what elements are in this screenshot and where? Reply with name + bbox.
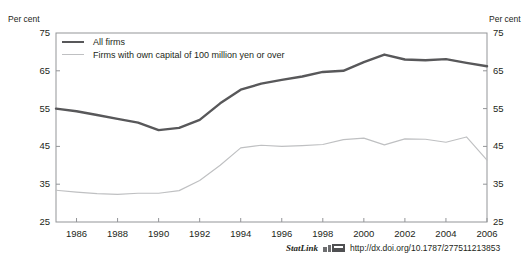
y-axis-tick-label-right: 65 [493, 65, 517, 76]
x-axis-tick-label: 1996 [262, 228, 302, 239]
statlink-url[interactable]: http://dx.doi.org/10.1787/277511213853 [350, 243, 500, 253]
x-axis-tick-label: 2006 [467, 228, 507, 239]
x-axis-tick-label: 1992 [180, 228, 220, 239]
y-axis-tick-label-right: 35 [493, 178, 517, 189]
statlink-icon [323, 244, 345, 253]
statlink-label: StatLink [286, 243, 318, 253]
y-axis-tick-label-right: 75 [493, 27, 517, 38]
statlink-footer: StatLink http://dx.doi.org/10.1787/27751… [286, 243, 500, 253]
y-axis-tick-label-right: 45 [493, 140, 517, 151]
x-axis-tick-label: 2004 [426, 228, 466, 239]
x-axis-tick-label: 1990 [139, 228, 179, 239]
y-axis-tick-label-left: 45 [26, 140, 50, 151]
y-axis-tick-label-right: 55 [493, 103, 517, 114]
y-axis-tick-label-left: 25 [26, 216, 50, 227]
x-axis-tick-label: 2002 [385, 228, 425, 239]
y-axis-tick-label-left: 75 [26, 27, 50, 38]
x-axis-tick-label: 2000 [344, 228, 384, 239]
x-axis-tick-label: 1986 [57, 228, 97, 239]
chart-figure: Per cent Per cent All firms Firms with o… [0, 0, 527, 260]
x-axis-tick-label: 1994 [221, 228, 261, 239]
y-axis-tick-label-left: 65 [26, 65, 50, 76]
x-axis-tick-label: 1998 [303, 228, 343, 239]
x-axis-tick-label: 1988 [98, 228, 138, 239]
plot-area [0, 0, 527, 260]
y-axis-tick-label-left: 35 [26, 178, 50, 189]
y-axis-tick-label-left: 55 [26, 103, 50, 114]
y-axis-tick-label-right: 25 [493, 216, 517, 227]
